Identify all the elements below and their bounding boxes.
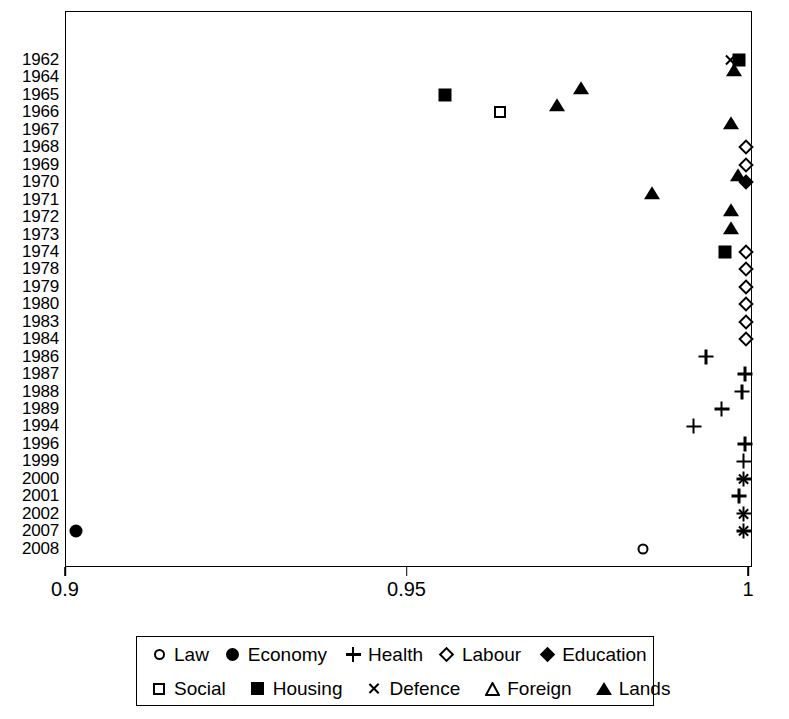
x-axis-labels: 0.90.951 xyxy=(0,578,789,606)
data-point-lands xyxy=(734,71,750,84)
legend-item-lands[interactable]: Lands xyxy=(594,671,671,706)
circle-fill-icon xyxy=(223,645,243,665)
x-axis-tick xyxy=(64,567,66,576)
data-point-health xyxy=(736,454,751,469)
data-point-defence xyxy=(737,525,750,538)
x-axis-tick-label: 1 xyxy=(742,578,753,601)
y-axis-tick-label: 1978 xyxy=(22,260,59,277)
legend-item-labour[interactable]: Labour xyxy=(437,637,521,672)
y-axis-tick-label: 1967 xyxy=(22,120,59,137)
legend-item-economy[interactable]: Economy xyxy=(223,637,327,672)
y-axis-tick-label: 1979 xyxy=(22,277,59,294)
legend-item-law[interactable]: Law xyxy=(149,637,209,672)
data-point-health xyxy=(735,384,750,399)
data-point-health xyxy=(737,436,752,451)
y-axis-tick-label: 1962 xyxy=(22,51,59,68)
legend-item-housing[interactable]: Housing xyxy=(248,671,343,706)
y-axis-tick-label: 1984 xyxy=(22,330,59,347)
x-axis-tick-label: 0.95 xyxy=(387,578,426,601)
data-point-health xyxy=(731,489,746,504)
legend-item-health[interactable]: Health xyxy=(343,637,423,672)
y-axis-tick-label: 1974 xyxy=(22,242,59,259)
legend-item-social[interactable]: Social xyxy=(149,671,226,706)
chart-root: 1962196419651966196719681969197019711972… xyxy=(0,0,789,719)
diamond-open-icon xyxy=(437,645,457,665)
data-point-defence xyxy=(737,472,750,485)
y-axis-labels: 1962196419651966196719681969197019711972… xyxy=(0,11,59,567)
legend-label: Health xyxy=(368,644,423,666)
plot-area xyxy=(66,12,751,566)
data-point-health xyxy=(686,419,701,434)
legend-label: Labour xyxy=(462,644,521,666)
legend-label: Law xyxy=(174,644,209,666)
y-axis-tick-label: 1987 xyxy=(22,365,59,382)
data-point-social xyxy=(494,106,506,118)
legend-label: Economy xyxy=(248,644,327,666)
data-point-health xyxy=(737,367,752,382)
data-point-housing xyxy=(439,88,452,101)
legend-item-foreign[interactable]: Foreign xyxy=(482,671,571,706)
legend-row-2: SocialHousingDefenceForeignLands xyxy=(137,671,653,706)
legend-item-defence[interactable]: Defence xyxy=(364,671,460,706)
y-axis-tick-label: 1986 xyxy=(22,347,59,364)
legend-label: Housing xyxy=(273,678,343,700)
data-point-housing xyxy=(719,245,732,258)
data-point-health xyxy=(698,349,713,364)
y-axis-tick-label: 1973 xyxy=(22,225,59,242)
legend-label: Education xyxy=(562,644,647,666)
y-axis-tick-label: 2002 xyxy=(22,504,59,521)
y-axis-tick-label: 1969 xyxy=(22,155,59,172)
cross-icon xyxy=(364,679,384,699)
data-point-defence xyxy=(737,507,750,520)
triangle-fill-icon xyxy=(594,679,614,699)
circle-open-icon xyxy=(149,645,169,665)
chart-legend: LawEconomyHealthLabourEducation SocialHo… xyxy=(136,636,654,706)
y-axis-tick-label: 1966 xyxy=(22,103,59,120)
y-axis-tick-label: 1968 xyxy=(22,138,59,155)
y-axis-tick-label: 1972 xyxy=(22,208,59,225)
data-point-lands xyxy=(731,123,747,136)
legend-label: Social xyxy=(174,678,226,700)
x-axis-tick xyxy=(406,567,408,576)
y-axis-tick-label: 2001 xyxy=(22,487,59,504)
x-axis-tick xyxy=(747,567,749,576)
y-axis-tick-label: 1980 xyxy=(22,295,59,312)
data-point-economy xyxy=(70,525,83,538)
x-axis-ticks xyxy=(65,567,752,577)
y-axis-tick-label: 1964 xyxy=(22,68,59,85)
data-point-lands xyxy=(652,193,668,206)
legend-label: Defence xyxy=(389,678,460,700)
data-point-law xyxy=(638,543,649,554)
data-point-lands xyxy=(731,228,747,241)
legend-row-1: LawEconomyHealthLabourEducation xyxy=(137,637,653,672)
y-axis-tick-label: 2007 xyxy=(22,522,59,539)
legend-label: Foreign xyxy=(507,678,571,700)
y-axis-tick-label: 2008 xyxy=(22,539,59,556)
y-axis-tick-label: 1983 xyxy=(22,312,59,329)
data-point-lands xyxy=(738,176,754,189)
x-axis-tick-label: 0.9 xyxy=(51,578,79,601)
data-point-lands xyxy=(581,88,597,101)
diamond-fill-icon xyxy=(537,645,557,665)
square-open-icon xyxy=(149,679,169,699)
y-axis-tick-label: 1970 xyxy=(22,173,59,190)
triangle-open-icon xyxy=(482,679,502,699)
y-axis-tick-label: 1965 xyxy=(22,85,59,102)
data-point-lands xyxy=(557,106,573,119)
plot-frame xyxy=(65,11,752,567)
y-axis-tick-label: 1994 xyxy=(22,417,59,434)
legend-item-education[interactable]: Education xyxy=(537,637,647,672)
y-axis-tick-label: 1999 xyxy=(22,452,59,469)
legend-label: Lands xyxy=(619,678,671,700)
plus-icon xyxy=(343,645,363,665)
y-axis-tick-label: 2000 xyxy=(22,469,59,486)
square-fill-icon xyxy=(248,679,268,699)
y-axis-tick-label: 1988 xyxy=(22,382,59,399)
data-point-health xyxy=(714,402,729,417)
y-axis-tick-label: 1996 xyxy=(22,434,59,451)
y-axis-tick-label: 1989 xyxy=(22,400,59,417)
y-axis-tick-label: 1971 xyxy=(22,190,59,207)
